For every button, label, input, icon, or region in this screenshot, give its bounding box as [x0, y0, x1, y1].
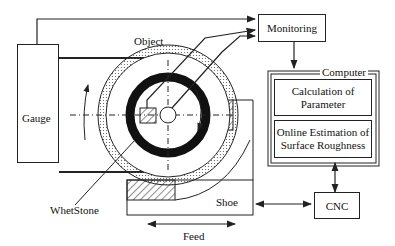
- computer-label: Computer: [320, 66, 368, 78]
- online-line2: Surface Roughness: [281, 139, 366, 152]
- whetstone-block: [140, 108, 156, 123]
- cnc-box: CNC: [314, 192, 360, 219]
- gauge-box: Gauge: [17, 44, 59, 163]
- calculation-line1: Calculation of: [292, 85, 355, 98]
- online-estimation-box: Online Estimation of Surface Roughness: [274, 120, 372, 158]
- gauge-label: Gauge: [22, 112, 51, 124]
- center-axis: [160, 107, 176, 123]
- object-label: Object: [134, 35, 163, 47]
- shoe-label: Shoe: [216, 196, 238, 208]
- calculation-box: Calculation of Parameter: [274, 79, 372, 116]
- feed-label: Feed: [183, 230, 204, 242]
- monitoring-box: Monitoring: [258, 14, 326, 42]
- monitoring-label: Monitoring: [267, 22, 317, 34]
- calculation-line2: Parameter: [301, 98, 346, 111]
- whetstone-label: WhetStone: [50, 204, 99, 216]
- online-line1: Online Estimation of: [277, 126, 369, 139]
- cnc-label: CNC: [326, 200, 349, 212]
